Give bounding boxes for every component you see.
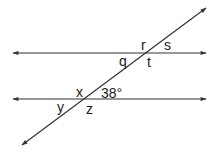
- angle-label-t: t: [147, 54, 151, 70]
- angle-label-y: y: [57, 99, 64, 115]
- angle-label-q: q: [119, 53, 127, 69]
- geometry-diagram: r s q t x 38° y z: [0, 0, 217, 152]
- angle-label-z: z: [86, 101, 93, 117]
- given-angle-label: 38°: [101, 85, 122, 101]
- transversal-line: [22, 8, 206, 145]
- angle-label-r: r: [141, 37, 146, 53]
- angle-label-x: x: [76, 84, 83, 100]
- angle-label-s: s: [164, 37, 171, 53]
